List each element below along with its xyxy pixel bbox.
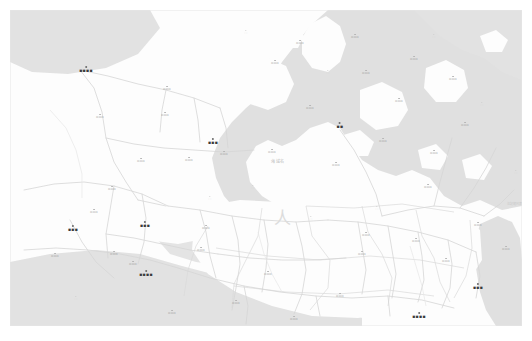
map-vector-layer	[10, 10, 522, 326]
map-canvas[interactable]: 人 海域名 注記 縮尺表示 ▪▪▪▪▪▪▪▪▪▪▪▪▪▪▪▪▪▪▪▪▪▪▪▪▪▪…	[10, 10, 522, 326]
map-screen: 人 海域名 注記 縮尺表示 ▪▪▪▪▪▪▪▪▪▪▪▪▪▪▪▪▪▪▪▪▪▪▪▪▪▪…	[0, 0, 532, 341]
